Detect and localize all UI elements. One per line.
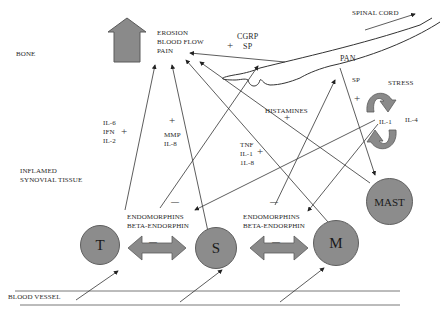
outcome-pain: PAIN: [157, 47, 204, 56]
s-m-minus-sign: —: [272, 236, 280, 247]
synoviocyte-plus-sign: +: [169, 115, 175, 126]
macrophage-cell: M: [313, 220, 359, 266]
t-s-minus-sign: —: [149, 236, 157, 247]
mediator-il8-m: 1L-8: [240, 159, 254, 168]
sp-label: SP: [352, 76, 360, 85]
il4-label: IL-4: [405, 116, 418, 125]
synovial-label-line2: SYNOVIAL TISSUE: [20, 176, 82, 185]
endorphin-left-minus-sign: —: [171, 196, 179, 207]
mediator-il1: IL-1: [240, 150, 254, 159]
endorphins-left: ENDOMORPHINS BETA-ENDORPHIN: [127, 213, 189, 231]
mediator-il2: IL-2: [103, 137, 116, 146]
blood-vessel-label: BLOOD VESSEL: [8, 293, 61, 302]
mediator-mmp: MMP: [164, 131, 181, 140]
beta-endorphin-left: BETA-ENDORPHIN: [127, 222, 189, 231]
sp-plus-sign: +: [354, 93, 360, 104]
stress-label: STRESS: [388, 79, 414, 88]
endomorphins-left: ENDOMORPHINS: [127, 213, 189, 222]
macrophage-mediators: TNF IL-1 1L-8: [240, 141, 254, 168]
mediator-il6: IL-6: [103, 119, 116, 128]
outcome-blood-flow: BLOOD FLOW: [157, 38, 204, 47]
mediator-il8: IL-8: [164, 140, 181, 149]
bone-up-arrow-icon: [108, 18, 146, 62]
endomorphins-right: ENDOMORPHINS: [243, 213, 305, 222]
cgrp-sp-label: CGRP SP: [237, 32, 258, 52]
mast-cell: MAST: [366, 178, 413, 225]
spinal-cord-label: SPINAL CORD: [352, 9, 399, 18]
neuroimmune-arthritis-diagram: BONE INFLAMED SYNOVIAL TISSUE BLOOD VESS…: [0, 0, 443, 315]
sp-text: SP: [237, 42, 258, 52]
pan-label: PAN: [340, 54, 356, 64]
cgrp-text: CGRP: [237, 32, 258, 42]
endorphins-right: ENDOMORPHINS BETA-ENDORPHIN: [243, 213, 305, 231]
outcomes-list: EROSION BLOOD FLOW PAIN: [157, 29, 204, 56]
t-s-double-arrow-icon: [128, 236, 186, 260]
t-cell: T: [80, 225, 120, 265]
histamines-plus-sign: +: [284, 112, 290, 123]
macrophage-plus-sign: +: [257, 146, 263, 157]
synoviocyte-cell: S: [195, 227, 237, 269]
t-cell-mediators: IL-6 IFN IL-2: [103, 119, 116, 146]
outcome-erosion: EROSION: [157, 29, 204, 38]
il1-label: IL-1: [379, 118, 392, 127]
mediator-tnf: TNF: [240, 141, 254, 150]
synoviocyte-mediators: MMP IL-8: [164, 131, 181, 149]
synovial-label-line1: INFLAMED: [20, 167, 57, 176]
mediator-ifn: IFN: [103, 128, 116, 137]
stress-cycle-top-arrow-icon: [367, 93, 396, 112]
beta-endorphin-right: BETA-ENDORPHIN: [243, 222, 305, 231]
endorphin-right-minus-sign: —: [270, 196, 278, 207]
spinal-cord-shape: [223, 18, 441, 86]
bone-label: BONE: [16, 50, 35, 59]
t-cell-plus-sign: +: [121, 126, 127, 137]
cgrp-plus-sign: +: [227, 40, 233, 51]
